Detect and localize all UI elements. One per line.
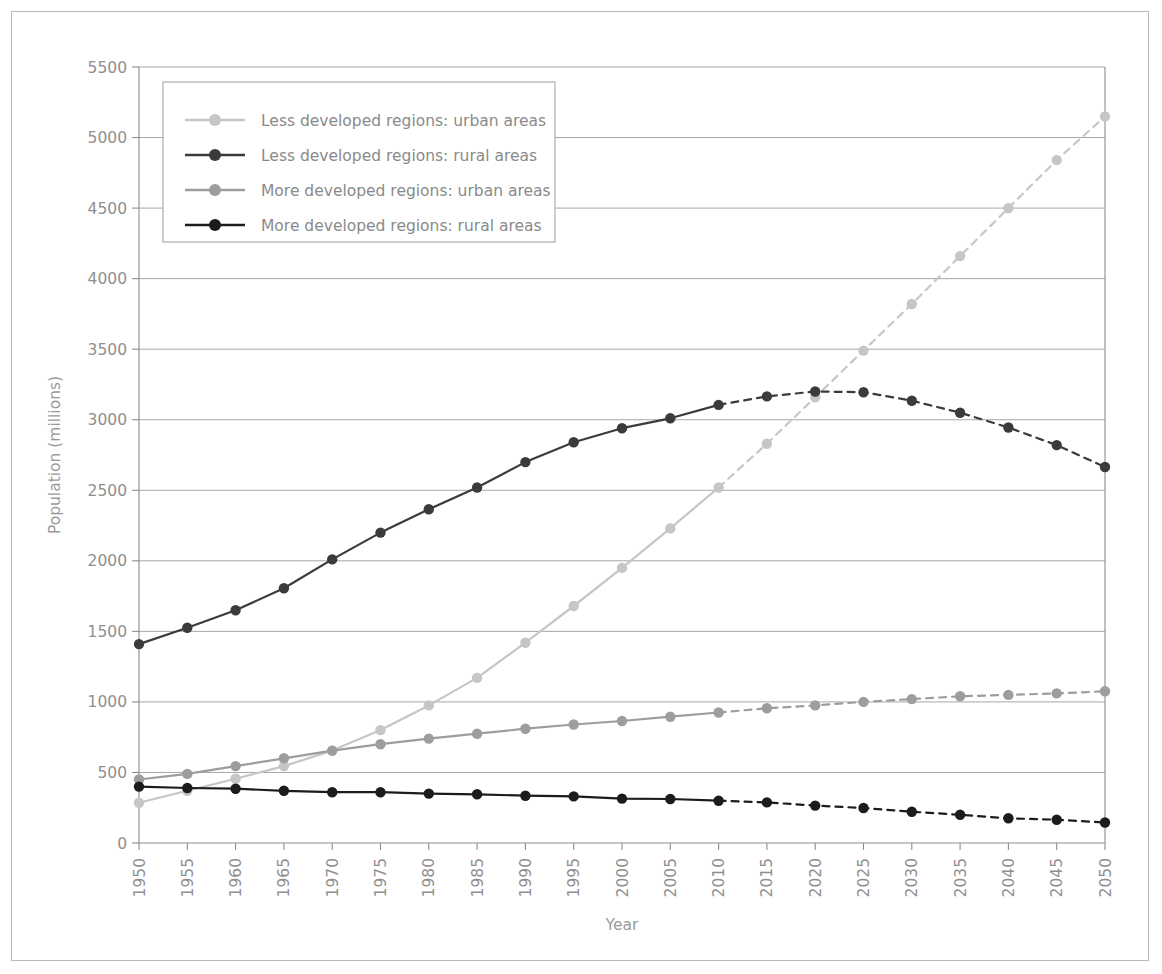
data-point-s3-1950 (134, 781, 144, 791)
data-point-s1-2025 (858, 387, 868, 397)
legend-swatch-marker-2 (209, 184, 221, 196)
data-point-s0-2000 (617, 563, 627, 573)
data-point-s1-1960 (230, 605, 240, 615)
data-point-s3-2035 (955, 810, 965, 820)
data-point-s1-1990 (520, 457, 530, 467)
data-point-s0-2015 (762, 439, 772, 449)
data-point-s3-2010 (713, 796, 723, 806)
data-point-s3-1955 (182, 783, 192, 793)
y-tick-label: 2000 (88, 552, 127, 570)
x-tick-label: 1995 (565, 858, 583, 897)
y-tick-label: 3500 (88, 341, 127, 359)
data-point-s0-2025 (858, 345, 868, 355)
legend-label-0: Less developed regions: urban areas (261, 112, 546, 130)
data-point-s2-2045 (1052, 688, 1062, 698)
x-tick-label: 1965 (275, 858, 293, 897)
chart-svg: 0500100015002000250030003500400045005000… (0, 0, 1162, 974)
x-tick-label: 2025 (855, 858, 873, 897)
data-point-s2-2025 (858, 697, 868, 707)
data-point-s0-1990 (520, 638, 530, 648)
data-point-s1-2050 (1100, 462, 1110, 472)
data-point-s2-2035 (955, 691, 965, 701)
data-point-s0-1985 (472, 673, 482, 683)
data-point-s1-2000 (617, 423, 627, 433)
x-tick-label: 1970 (324, 858, 342, 897)
y-tick-label: 0 (117, 835, 127, 853)
data-point-s1-1975 (375, 527, 385, 537)
data-point-s1-2015 (762, 391, 772, 401)
y-tick-label: 500 (97, 764, 127, 782)
data-point-s3-2045 (1052, 815, 1062, 825)
data-point-s0-1960 (230, 774, 240, 784)
data-point-s2-1970 (327, 745, 337, 755)
data-point-s2-2050 (1100, 686, 1110, 696)
legend-swatch-marker-3 (209, 219, 221, 231)
data-point-s2-2010 (713, 707, 723, 717)
y-tick-label: 5000 (88, 129, 127, 147)
y-tick-label: 3000 (88, 411, 127, 429)
x-tick-label: 2040 (1000, 858, 1018, 897)
data-point-s3-1960 (230, 784, 240, 794)
series-line-solid-1 (139, 405, 719, 644)
data-point-s3-1980 (424, 788, 434, 798)
y-tick-label: 4500 (88, 200, 127, 218)
data-point-s1-2010 (713, 400, 723, 410)
x-tick-label: 2020 (807, 858, 825, 897)
x-tick-label: 2005 (662, 858, 680, 897)
data-point-s3-2005 (665, 794, 675, 804)
data-point-s3-2015 (762, 797, 772, 807)
y-tick-label: 1000 (88, 693, 127, 711)
data-point-s1-1965 (279, 583, 289, 593)
legend-swatch-marker-0 (209, 114, 221, 126)
data-point-s3-1990 (520, 791, 530, 801)
data-point-s2-1985 (472, 729, 482, 739)
data-point-s2-2005 (665, 712, 675, 722)
x-tick-label: 2045 (1048, 858, 1066, 897)
y-tick-label: 2500 (88, 482, 127, 500)
legend-swatch-marker-1 (209, 149, 221, 161)
x-tick-label: 2035 (952, 858, 970, 897)
x-tick-label: 1975 (372, 858, 390, 897)
data-point-s3-2030 (907, 807, 917, 817)
data-point-s2-1960 (230, 761, 240, 771)
data-point-s3-1965 (279, 786, 289, 796)
data-point-s0-1950 (134, 798, 144, 808)
series-line-solid-0 (139, 488, 719, 803)
y-tick-label: 5500 (88, 59, 127, 77)
x-tick-label: 1990 (517, 858, 535, 897)
legend-label-2: More developed regions: urban areas (261, 182, 551, 200)
y-tick-label: 1500 (88, 623, 127, 641)
data-point-s2-2030 (907, 694, 917, 704)
data-point-s0-1975 (375, 725, 385, 735)
data-point-s2-1995 (569, 719, 579, 729)
data-point-s0-2050 (1100, 111, 1110, 121)
x-tick-label: 2010 (710, 858, 728, 897)
data-point-s2-1955 (182, 769, 192, 779)
data-point-s3-1985 (472, 789, 482, 799)
x-tick-label: 1955 (179, 858, 197, 897)
x-tick-label: 1950 (131, 858, 149, 897)
data-point-s2-1965 (279, 753, 289, 763)
legend-label-1: Less developed regions: rural areas (261, 147, 537, 165)
data-point-s3-2020 (810, 800, 820, 810)
data-point-s1-1970 (327, 554, 337, 564)
data-point-s0-2010 (713, 482, 723, 492)
data-point-s3-2050 (1100, 817, 1110, 827)
x-tick-label: 1980 (420, 858, 438, 897)
data-point-s2-2040 (1003, 690, 1013, 700)
data-point-s3-2000 (617, 793, 627, 803)
data-point-s1-2005 (665, 413, 675, 423)
series-line-solid-2 (139, 713, 719, 780)
data-point-s1-1980 (424, 504, 434, 514)
data-point-s3-2040 (1003, 813, 1013, 823)
y-axis-title: Population (millions) (46, 376, 64, 534)
x-tick-label: 2015 (758, 858, 776, 897)
data-point-s0-2035 (955, 251, 965, 261)
data-point-s2-2000 (617, 716, 627, 726)
data-point-s1-2040 (1003, 422, 1013, 432)
x-tick-label: 2050 (1097, 858, 1115, 897)
x-axis-title: Year (605, 916, 639, 934)
data-point-s1-1950 (134, 639, 144, 649)
data-point-s2-1980 (424, 733, 434, 743)
data-point-s0-1995 (569, 601, 579, 611)
